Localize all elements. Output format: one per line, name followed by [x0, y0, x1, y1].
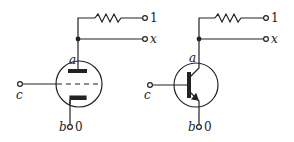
- supply-wire: [199, 18, 215, 39]
- resistor-icon: [95, 14, 142, 22]
- supply-terminal: [264, 16, 269, 21]
- vacuum-tube-circuit: [18, 14, 148, 129]
- input-terminal: [18, 82, 23, 87]
- ground-terminal: [197, 125, 202, 130]
- ground-terminal: [68, 125, 73, 130]
- output-label: x: [271, 32, 278, 46]
- anode-label: a: [189, 51, 196, 65]
- input-terminal: [148, 83, 153, 88]
- resistor-icon: [215, 14, 263, 22]
- transistor-circuit: [148, 14, 269, 129]
- output-label: x: [150, 32, 157, 46]
- ground-node-label: b: [59, 120, 67, 134]
- cathode-plate-icon: [70, 96, 86, 100]
- ground-node-label: b: [188, 120, 196, 134]
- output-terminal: [143, 37, 148, 42]
- supply-value-label: 1: [271, 11, 279, 25]
- input-label: c: [144, 88, 151, 102]
- circuit-diagram: a c b 0 1 x a c b 0 1 x: [0, 0, 294, 142]
- supply-terminal: [143, 16, 148, 21]
- ground-value-label: 0: [204, 120, 212, 134]
- ground-value-label: 0: [75, 120, 83, 134]
- supply-value-label: 1: [150, 11, 158, 25]
- supply-wire: [78, 18, 95, 39]
- anode-label: a: [69, 53, 76, 67]
- base-bar-icon: [187, 72, 191, 98]
- input-label: c: [16, 88, 23, 102]
- output-terminal: [264, 37, 269, 42]
- anode-plate-icon: [68, 69, 87, 73]
